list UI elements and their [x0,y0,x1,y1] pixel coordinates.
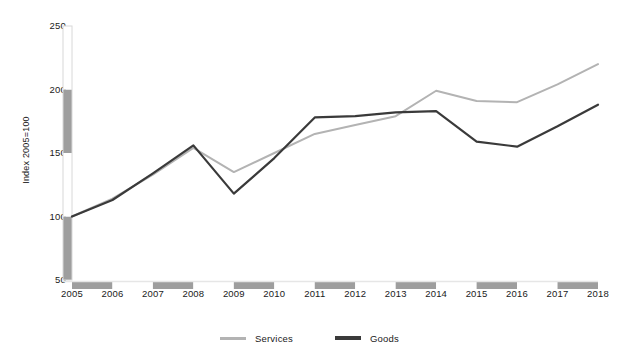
x-axis-tick-2012: 2012 [344,288,366,299]
x-axis-tick-2007: 2007 [142,288,164,299]
legend-item-services[interactable]: Services [220,333,293,344]
x-axis-tick-2010: 2010 [263,288,285,299]
x-axis-tick-2013: 2013 [385,288,407,299]
legend-label-goods: Goods [370,333,399,344]
line-chart: Index 2005=100 25020015010050 2005200620… [0,0,619,360]
legend-item-goods[interactable]: Goods [335,333,399,344]
axis-decoration-bands [63,26,598,289]
series-lines [72,64,598,216]
x-axis-tick-2008: 2008 [182,288,204,299]
legend-swatch-goods [335,336,361,340]
x-axis-tick-2005: 2005 [61,288,83,299]
x-axis-tick-2018: 2018 [587,288,609,299]
x-axis-tick-2015: 2015 [466,288,488,299]
x-axis-tick-2017: 2017 [547,288,569,299]
x-axis-tick-2011: 2011 [304,288,325,299]
y-axis-band-segment [63,26,72,90]
y-axis-band-segment [63,90,72,154]
chart-legend: ServicesGoods [0,329,619,347]
series-line-services [72,64,598,216]
y-axis-band-segment [63,217,72,281]
x-axis-tick-2014: 2014 [425,288,447,299]
series-line-goods [72,105,598,217]
plot-area [0,0,619,360]
x-axis-tick-2009: 2009 [223,288,245,299]
legend-label-services: Services [255,333,293,344]
y-axis-band-segment [63,153,72,217]
x-axis-tick-2006: 2006 [101,288,123,299]
x-axis-tick-2016: 2016 [506,288,528,299]
legend-swatch-services [220,337,246,340]
x-axis-tick-labels: 2005200620072008200920102011201220132014… [0,288,619,304]
